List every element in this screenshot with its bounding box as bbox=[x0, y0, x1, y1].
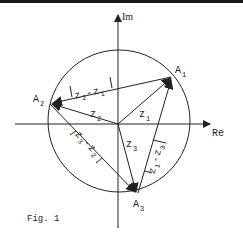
im-axis-label: Im bbox=[122, 11, 133, 22]
svg-text:1: 1 bbox=[146, 115, 150, 123]
svg-text:A: A bbox=[33, 94, 39, 105]
svg-text:z: z bbox=[139, 109, 145, 120]
svg-text:z: z bbox=[73, 90, 81, 102]
diff-label-z2-z1: z 2 - z 1 bbox=[73, 85, 105, 104]
diff-label-z1-z3: z 1 - z 3 bbox=[146, 143, 167, 176]
vector-label-z3: z 3 bbox=[126, 139, 137, 153]
svg-text:3: 3 bbox=[133, 145, 137, 153]
svg-text:1: 1 bbox=[100, 89, 106, 98]
svg-text:2: 2 bbox=[40, 100, 44, 108]
vector-label-z1: z 1 bbox=[139, 109, 150, 123]
diff-label-z3-z2: z 3 - z 2 bbox=[71, 129, 101, 160]
svg-text:z: z bbox=[92, 86, 100, 98]
vector-label-z2: z 2 bbox=[90, 109, 101, 123]
point-label-a2: A 2 bbox=[33, 94, 44, 108]
vector-z2 bbox=[52, 104, 118, 124]
circumcircle bbox=[48, 50, 190, 192]
vector-z3 bbox=[118, 124, 136, 192]
side-z1-minus-z3 bbox=[138, 80, 171, 193]
svg-text:z: z bbox=[90, 109, 96, 120]
svg-text:A: A bbox=[175, 65, 181, 76]
point-label-a1: A 1 bbox=[175, 65, 186, 79]
svg-text:z: z bbox=[126, 139, 132, 150]
point-label-a3: A 3 bbox=[133, 199, 144, 213]
svg-text:1: 1 bbox=[182, 71, 186, 79]
svg-text:A: A bbox=[133, 199, 139, 210]
complex-plane-diagram: Im Re A 1 A 2 A 3 z 1 z 2 z 3 z 2 - z 1 … bbox=[0, 0, 243, 241]
svg-text:2: 2 bbox=[97, 115, 101, 123]
re-axis-label: Re bbox=[212, 128, 224, 139]
svg-text:3: 3 bbox=[158, 145, 167, 151]
figure-caption: Fig. 1 bbox=[27, 214, 59, 224]
svg-text:3: 3 bbox=[140, 205, 144, 213]
